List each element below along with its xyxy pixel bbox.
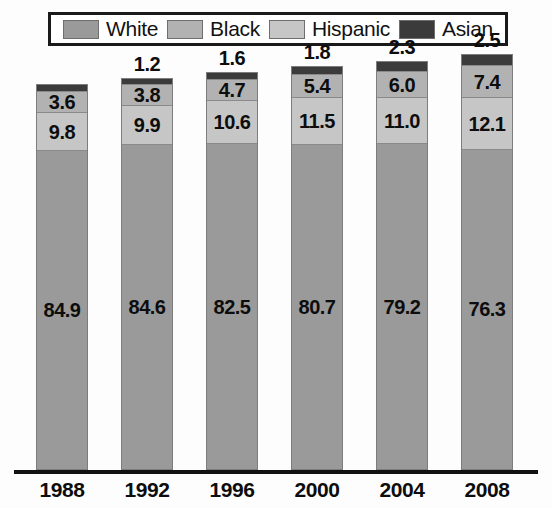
bar-segment-value-2004-white: 79.2 xyxy=(384,297,421,317)
x-axis-tick-2008: 2008 xyxy=(461,478,513,502)
bar-segment-value-2004-black: 6.0 xyxy=(389,75,415,95)
bar-segment-value-2000-hispanic: 11.5 xyxy=(299,111,335,131)
bar-segment-1996-black[interactable]: 4.7 xyxy=(207,79,257,100)
bar-segment-value-2004-hispanic: 11.0 xyxy=(384,111,420,131)
legend-swatch-white-icon xyxy=(63,20,99,39)
x-axis-tick-1996: 1996 xyxy=(206,478,258,502)
x-axis-tick-2000: 2000 xyxy=(291,478,343,502)
bar-top-label-1992: 1.2 xyxy=(121,54,173,74)
bar-segment-value-2000-black: 5.4 xyxy=(304,76,330,96)
bar-segment-value-1996-hispanic: 10.6 xyxy=(214,112,251,132)
bar-segment-value-1988-white: 84.9 xyxy=(44,300,81,320)
bar-segment-2000-black[interactable]: 5.4 xyxy=(292,74,342,97)
x-axis-baseline xyxy=(14,470,538,474)
bar-segment-value-1996-white: 82.5 xyxy=(214,297,251,317)
bar-group-1996[interactable]: 1.64.710.682.5 xyxy=(206,56,258,470)
bar-segment-1992-black[interactable]: 3.8 xyxy=(122,84,172,105)
bar-segment-value-1992-hispanic: 9.9 xyxy=(134,115,160,135)
bar-top-label-2000: 1.8 xyxy=(291,42,343,62)
legend-item-hispanic: Hispanic xyxy=(269,17,390,41)
bar-group-1988[interactable]: 3.69.884.9 xyxy=(36,56,88,470)
bar-segment-2008-hispanic[interactable]: 12.1 xyxy=(462,97,512,149)
bar-top-label-1996: 1.6 xyxy=(206,48,258,68)
bar-segment-1996-hispanic[interactable]: 10.6 xyxy=(207,100,257,143)
x-axis-tick-1988: 1988 xyxy=(36,478,88,502)
bar-group-2008[interactable]: 2.57.412.176.3 xyxy=(461,56,513,470)
bar-group-1992[interactable]: 1.23.89.984.6 xyxy=(121,56,173,470)
bar-segment-2000-asian[interactable] xyxy=(292,67,342,74)
bar-segment-value-2008-hispanic: 12.1 xyxy=(469,114,506,134)
bar-segment-2004-white[interactable]: 79.2 xyxy=(377,143,427,469)
bar-segment-2008-black[interactable]: 7.4 xyxy=(462,65,512,97)
stacked-bar-1988[interactable]: 3.69.884.9 xyxy=(36,84,88,470)
bar-segment-value-1996-black: 4.7 xyxy=(219,80,245,100)
chart-legend: White Black Hispanic Asian xyxy=(48,12,508,46)
bar-group-2000[interactable]: 1.85.411.580.7 xyxy=(291,56,343,470)
bar-top-label-2008: 2.5 xyxy=(461,30,513,50)
legend-label-white: White xyxy=(106,17,158,41)
bar-segment-value-1992-white: 84.6 xyxy=(129,297,166,317)
bar-segment-value-2008-black: 7.4 xyxy=(474,72,500,92)
plot-area: 3.69.884.91.23.89.984.61.64.710.682.51.8… xyxy=(0,56,552,474)
bar-segment-2004-asian[interactable] xyxy=(377,62,427,71)
stacked-bar-2004[interactable]: 6.011.079.2 xyxy=(376,61,428,470)
bar-segment-1988-hispanic[interactable]: 9.8 xyxy=(37,112,87,150)
bar-series-container: 3.69.884.91.23.89.984.61.64.710.682.51.8… xyxy=(0,56,552,470)
bar-segment-2004-black[interactable]: 6.0 xyxy=(377,71,427,97)
stacked-bar-2000[interactable]: 5.411.580.7 xyxy=(291,66,343,470)
legend-label-black: Black xyxy=(210,17,260,41)
bar-segment-1988-white[interactable]: 84.9 xyxy=(37,150,87,469)
stacked-bar-1996[interactable]: 4.710.682.5 xyxy=(206,72,258,470)
bar-segment-1992-white[interactable]: 84.6 xyxy=(122,144,172,469)
legend-swatch-hispanic-icon xyxy=(269,20,305,39)
bar-segment-2008-asian[interactable] xyxy=(462,55,512,65)
stacked-bar-1992[interactable]: 3.89.984.6 xyxy=(121,78,173,470)
bar-segment-1996-white[interactable]: 82.5 xyxy=(207,143,257,469)
bar-segment-2000-hispanic[interactable]: 11.5 xyxy=(292,97,342,144)
bar-segment-value-1988-hispanic: 9.8 xyxy=(49,122,75,142)
bar-top-label-2004: 2.3 xyxy=(376,37,428,57)
bar-segment-value-1992-black: 3.8 xyxy=(134,85,160,105)
bar-segment-value-2008-white: 76.3 xyxy=(469,299,506,319)
chart-root: White Black Hispanic Asian 3.69.884.91.2… xyxy=(0,0,552,508)
stacked-bar-2008[interactable]: 7.412.176.3 xyxy=(461,54,513,470)
bar-segment-2000-white[interactable]: 80.7 xyxy=(292,144,342,469)
legend-item-white: White xyxy=(63,17,158,41)
x-axis-tick-1992: 1992 xyxy=(121,478,173,502)
bar-segment-value-2000-white: 80.7 xyxy=(299,297,336,317)
bar-group-2004[interactable]: 2.36.011.079.2 xyxy=(376,56,428,470)
x-axis-tick-labels: 198819921996200020042008 xyxy=(0,478,552,508)
bar-segment-2008-white[interactable]: 76.3 xyxy=(462,149,512,469)
legend-swatch-black-icon xyxy=(167,20,203,39)
bar-segment-1992-hispanic[interactable]: 9.9 xyxy=(122,105,172,144)
bar-segment-value-1988-black: 3.6 xyxy=(49,92,75,112)
bar-segment-2004-hispanic[interactable]: 11.0 xyxy=(377,97,427,143)
bar-segment-1988-black[interactable]: 3.6 xyxy=(37,91,87,112)
legend-item-black: Black xyxy=(167,17,260,41)
x-axis-tick-2004: 2004 xyxy=(376,478,428,502)
